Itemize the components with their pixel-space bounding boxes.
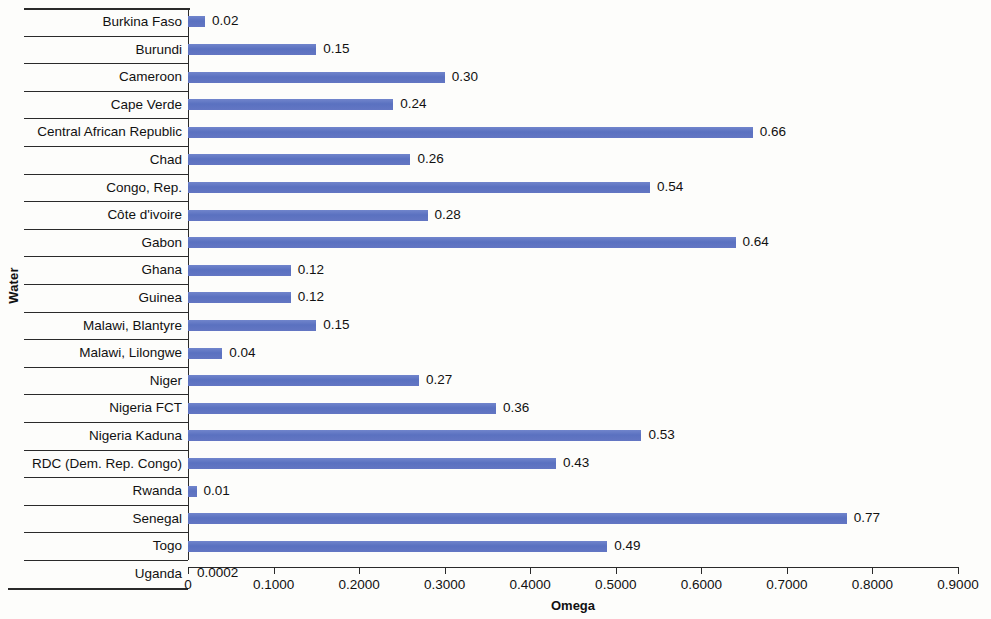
x-axis-tick-label: 0.1000 xyxy=(253,577,294,592)
bar-value-label: 0.02 xyxy=(212,15,238,26)
x-axis-tick xyxy=(445,567,446,574)
bar-value-label: 0.28 xyxy=(435,209,461,220)
x-axis-tick xyxy=(274,567,275,574)
x-axis-tick xyxy=(616,567,617,574)
x-axis-tick-label: 0.4000 xyxy=(510,577,551,592)
x-axis-tick xyxy=(872,567,873,574)
x-axis-tick-label: 0.8000 xyxy=(852,577,893,592)
bar xyxy=(188,182,650,193)
category-row: Burkina Faso xyxy=(0,8,188,36)
x-axis-tick-label: 0.3000 xyxy=(424,577,465,592)
bar-value-label: 0.15 xyxy=(323,319,349,330)
bar xyxy=(188,16,205,27)
x-axis-tick-label: 0.7000 xyxy=(766,577,807,592)
bar xyxy=(188,320,316,331)
x-axis-tick-label: 0 xyxy=(184,577,192,592)
bar-value-label: 0.53 xyxy=(648,429,674,440)
category-label: Chad xyxy=(150,146,182,174)
bar-value-label: 0.66 xyxy=(760,126,786,137)
category-label: Congo, Rep. xyxy=(106,174,182,202)
bar xyxy=(188,430,641,441)
category-axis-spine xyxy=(188,8,189,560)
bar-value-label: 0.12 xyxy=(298,291,324,302)
x-axis-tick-label: 0.2000 xyxy=(338,577,379,592)
bar xyxy=(188,348,222,359)
category-label: Cape Verde xyxy=(111,91,182,119)
x-axis-title: Omega xyxy=(551,598,595,613)
bar-value-label: 0.77 xyxy=(854,512,880,523)
category-row: Nigeria Kaduna xyxy=(0,422,188,450)
category-label: Côte d'ivoire xyxy=(107,201,182,229)
category-label: Senegal xyxy=(132,505,182,533)
bar xyxy=(188,72,445,83)
category-label: Togo xyxy=(153,532,182,560)
bar-value-label: 0.01 xyxy=(204,485,230,496)
bar-value-label: 0.30 xyxy=(452,71,478,82)
x-axis-endcap xyxy=(958,567,959,574)
category-label: Niger xyxy=(150,367,182,395)
x-axis-tick xyxy=(787,567,788,574)
category-row: Rwanda xyxy=(0,477,188,505)
category-row: Uganda xyxy=(0,560,188,588)
bar xyxy=(188,403,496,414)
bar-value-label: 0.54 xyxy=(657,181,683,192)
bar-value-label: 0.15 xyxy=(323,43,349,54)
bar xyxy=(188,375,419,386)
category-row: RDC (Dem. Rep. Congo) xyxy=(0,450,188,478)
bar-value-label: 0.64 xyxy=(743,236,769,247)
category-label: Nigeria Kaduna xyxy=(89,422,182,450)
category-row: Senegal xyxy=(0,505,188,533)
bar-value-label: 0.0002 xyxy=(197,567,238,578)
bar xyxy=(188,237,736,248)
bar-value-label: 0.43 xyxy=(563,457,589,468)
row-separator xyxy=(8,588,188,590)
category-row: Cameroon xyxy=(0,63,188,91)
x-axis-tick xyxy=(701,567,702,574)
category-row: Cape Verde xyxy=(0,91,188,119)
x-axis-tick xyxy=(530,567,531,574)
category-label: Ghana xyxy=(141,256,182,284)
category-label: Guinea xyxy=(138,284,182,312)
category-row: Nigeria FCT xyxy=(0,394,188,422)
bar-value-label: 0.24 xyxy=(400,98,426,109)
bar xyxy=(188,486,197,497)
category-label: Cameroon xyxy=(119,63,182,91)
bar xyxy=(188,44,316,55)
bar xyxy=(188,127,753,138)
category-label: RDC (Dem. Rep. Congo) xyxy=(32,450,182,478)
bar-value-label: 0.26 xyxy=(417,153,443,164)
bar-value-label: 0.27 xyxy=(426,374,452,385)
plot-area: Burkina Faso0.02Burundi0.15Cameroon0.30C… xyxy=(0,0,991,619)
category-label: Malawi, Blantyre xyxy=(83,312,182,340)
category-label: Burkina Faso xyxy=(102,8,182,36)
category-label: Gabon xyxy=(141,229,182,257)
category-label: Malawi, Lilongwe xyxy=(79,339,182,367)
category-label: Central African Republic xyxy=(37,118,182,146)
bar xyxy=(188,210,428,221)
category-row: Ghana xyxy=(0,256,188,284)
category-row: Malawi, Lilongwe xyxy=(0,339,188,367)
bar xyxy=(188,292,291,303)
category-row: Côte d'ivoire xyxy=(0,201,188,229)
bar xyxy=(188,154,410,165)
category-row: Guinea xyxy=(0,284,188,312)
x-axis-endcap xyxy=(188,567,189,574)
x-axis-tick-label: 0.9000 xyxy=(937,577,978,592)
x-axis-tick xyxy=(359,567,360,574)
bar xyxy=(188,458,556,469)
category-row: Malawi, Blantyre xyxy=(0,312,188,340)
category-row: Central African Republic xyxy=(0,118,188,146)
bar-chart: Water Burkina Faso0.02Burundi0.15Cameroo… xyxy=(0,0,991,619)
bar-value-label: 0.36 xyxy=(503,402,529,413)
x-axis-line xyxy=(188,567,958,568)
category-row: Niger xyxy=(0,367,188,395)
category-row: Togo xyxy=(0,532,188,560)
category-row: Chad xyxy=(0,146,188,174)
category-label: Burundi xyxy=(135,36,182,64)
bar-value-label: 0.49 xyxy=(614,540,640,551)
category-row: Gabon xyxy=(0,229,188,257)
x-axis-tick-label: 0.5000 xyxy=(595,577,636,592)
bar xyxy=(188,99,393,110)
bar xyxy=(188,513,847,524)
category-label: Nigeria FCT xyxy=(109,394,182,422)
